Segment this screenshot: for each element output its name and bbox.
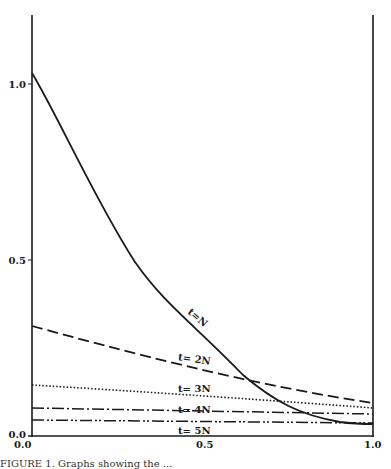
label-t-4N: t= 4N	[178, 404, 211, 415]
y-label-1: 1.0	[9, 79, 26, 90]
x-label-0: 0.0	[14, 439, 31, 450]
label-t-3N: t= 3N	[178, 383, 211, 394]
x-label-05: 0.5	[196, 439, 213, 450]
curve-t-5N	[32, 420, 373, 423]
curve-t-N	[32, 73, 373, 424]
label-t-N: t=N	[186, 306, 210, 329]
y-label-05: 0.5	[9, 255, 26, 266]
figure-caption: FIGURE 1. Graphs showing the ...	[0, 458, 172, 469]
label-t-5N: t= 5N	[178, 425, 211, 436]
label-t-2N: t= 2N	[178, 351, 212, 366]
x-label-1: 1.0	[364, 439, 381, 450]
